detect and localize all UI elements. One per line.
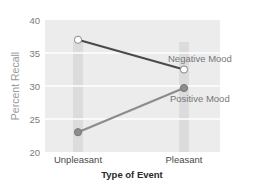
y-tick-label: 40 [29, 15, 40, 26]
y-tick-label: 20 [29, 147, 40, 158]
x-category-label: Pleasant [166, 154, 203, 165]
series-label: Negative Mood [168, 53, 232, 64]
x-category-label: Unpleasant [54, 154, 102, 165]
line-chart: 2025303540 Percent Recall UnpleasantPlea… [0, 0, 256, 186]
y-tick-label: 30 [29, 81, 40, 92]
data-point-marker [180, 66, 187, 73]
y-axis-ticks: 2025303540 [29, 15, 40, 158]
data-point-marker [74, 129, 81, 136]
data-point-marker [74, 36, 81, 43]
y-tick-label: 25 [29, 114, 40, 125]
y-axis-label: Percent Recall [9, 52, 21, 120]
x-axis-categories: UnpleasantPleasant [54, 154, 203, 165]
x-axis-title: Type of Event [101, 169, 163, 180]
y-tick-label: 35 [29, 48, 40, 59]
data-point-marker [180, 84, 187, 91]
series-label: Positive Mood [170, 93, 230, 104]
